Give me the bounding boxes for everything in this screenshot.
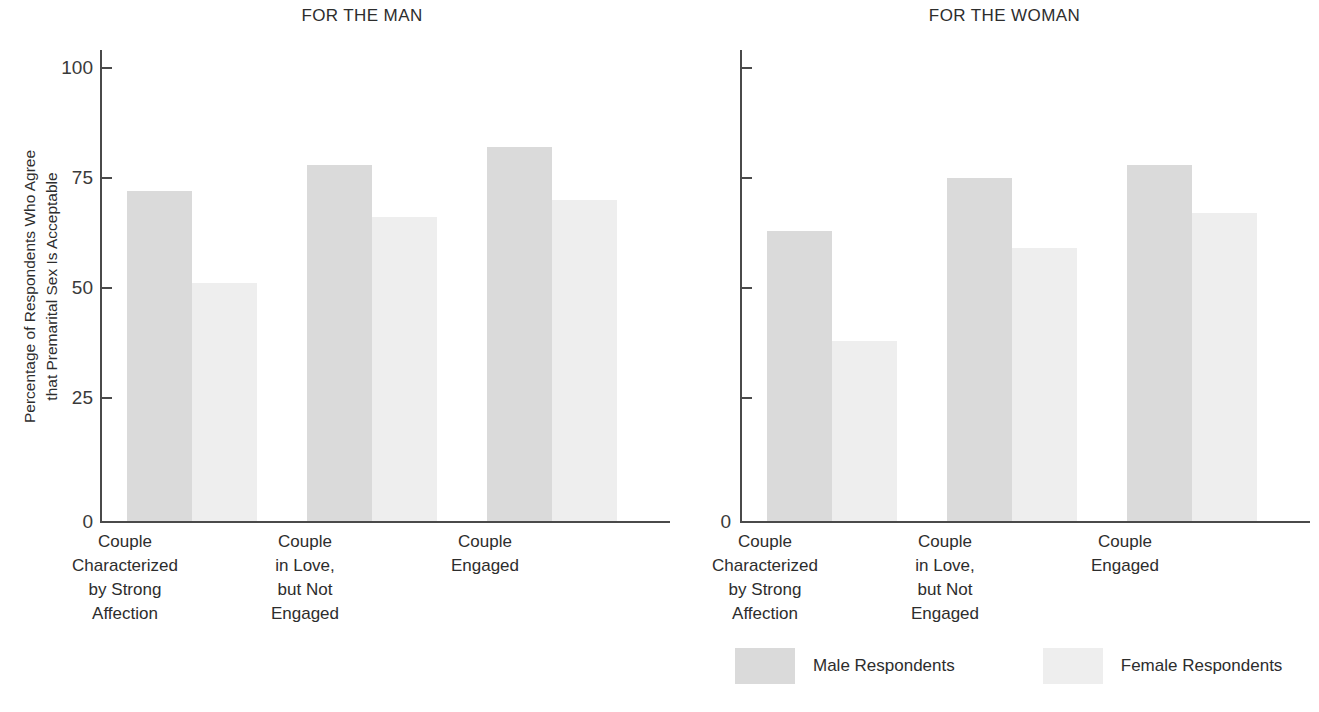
y-tick-100: 100 bbox=[101, 67, 112, 69]
category-label-man-2-line4: Engaged bbox=[205, 602, 405, 626]
category-label-woman-2: Couple in Love, but Not Engaged bbox=[845, 530, 1045, 626]
category-label-woman-2-line3: but Not bbox=[845, 578, 1045, 602]
panel-title-woman: FOR THE WOMAN bbox=[660, 6, 1319, 26]
bar-chart-figure: FOR THE MAN Percentage of Respondents Wh… bbox=[0, 0, 1319, 712]
category-label-woman-1-line4: Affection bbox=[665, 602, 865, 626]
y-tick-woman-50 bbox=[741, 287, 752, 289]
bar-woman-male-2 bbox=[947, 178, 1012, 521]
category-label-man-2: Couple in Love, but Not Engaged bbox=[205, 530, 405, 626]
category-label-woman-2-line4: Engaged bbox=[845, 602, 1045, 626]
legend-item-male: Male Respondents bbox=[735, 648, 955, 684]
bar-woman-female-2 bbox=[1012, 248, 1077, 521]
category-label-man-1-line3: by Strong bbox=[25, 578, 225, 602]
category-label-man-1-line2: Characterized bbox=[25, 554, 225, 578]
y-tick-label-25: 25 bbox=[72, 388, 93, 407]
y-tick-label-woman-0: 0 bbox=[720, 512, 731, 531]
bar-man-male-1 bbox=[127, 191, 192, 521]
category-label-woman-2-line1: Couple bbox=[845, 530, 1045, 554]
bar-woman-male-1 bbox=[767, 231, 832, 521]
category-label-woman-1: Couple Characterized by Strong Affection bbox=[665, 530, 865, 626]
y-tick-50: 50 bbox=[101, 287, 112, 289]
category-label-woman-3-line1: Couple bbox=[1025, 530, 1225, 554]
y-tick-woman-75 bbox=[741, 177, 752, 179]
category-label-woman-1-line1: Couple bbox=[665, 530, 865, 554]
legend: Male Respondents Female Respondents bbox=[735, 648, 1282, 684]
y-tick-label-50: 50 bbox=[72, 278, 93, 297]
plot-area-man: 100 75 50 25 0 bbox=[100, 50, 670, 523]
y-tick-75: 75 bbox=[101, 177, 112, 179]
category-label-woman-1-line3: by Strong bbox=[665, 578, 865, 602]
y-axis-label-line2: that Premarital Sex Is Acceptable bbox=[43, 172, 61, 400]
bar-man-female-3 bbox=[552, 200, 617, 521]
category-label-man-2-line2: in Love, bbox=[205, 554, 405, 578]
y-tick-label-75: 75 bbox=[72, 168, 93, 187]
y-tick-woman-25 bbox=[741, 397, 752, 399]
legend-label-male: Male Respondents bbox=[813, 656, 955, 676]
bar-man-female-2 bbox=[372, 217, 437, 521]
bar-man-male-2 bbox=[307, 165, 372, 521]
bar-woman-female-1 bbox=[832, 341, 897, 521]
category-label-man-1: Couple Characterized by Strong Affection bbox=[25, 530, 225, 626]
category-label-man-1-line4: Affection bbox=[25, 602, 225, 626]
plot-area-woman: 0 bbox=[740, 50, 1310, 523]
bar-man-male-3 bbox=[487, 147, 552, 521]
category-label-man-2-line1: Couple bbox=[205, 530, 405, 554]
panel-title-man: FOR THE MAN bbox=[0, 6, 700, 26]
bar-man-female-1 bbox=[192, 283, 257, 521]
x-axis-line-man bbox=[100, 521, 670, 523]
category-label-woman-3-line2: Engaged bbox=[1025, 554, 1225, 578]
category-label-man-3: Couple Engaged bbox=[385, 530, 585, 578]
y-axis-label-second: that Premarital Sex Is Acceptable bbox=[30, 50, 74, 523]
y-tick-label-0: 0 bbox=[82, 512, 93, 531]
legend-label-female: Female Respondents bbox=[1121, 656, 1283, 676]
x-axis-line-woman bbox=[740, 521, 1310, 523]
category-label-woman-3: Couple Engaged bbox=[1025, 530, 1225, 578]
category-label-woman-2-line2: in Love, bbox=[845, 554, 1045, 578]
panel-for-the-woman: FOR THE WOMAN 0 Couple Characterized by … bbox=[660, 0, 1319, 712]
category-label-man-1-line1: Couple bbox=[25, 530, 225, 554]
legend-swatch-male-icon bbox=[735, 648, 795, 684]
category-label-man-2-line3: but Not bbox=[205, 578, 405, 602]
category-label-woman-1-line2: Characterized bbox=[665, 554, 865, 578]
y-tick-woman-100 bbox=[741, 67, 752, 69]
legend-swatch-female-icon bbox=[1043, 648, 1103, 684]
y-tick-label-100: 100 bbox=[61, 58, 93, 77]
y-tick-25: 25 bbox=[101, 397, 112, 399]
legend-item-female: Female Respondents bbox=[1043, 648, 1283, 684]
panel-for-the-man: FOR THE MAN Percentage of Respondents Wh… bbox=[0, 0, 700, 712]
bar-woman-female-3 bbox=[1192, 213, 1257, 521]
category-label-man-3-line1: Couple bbox=[385, 530, 585, 554]
bar-woman-male-3 bbox=[1127, 165, 1192, 521]
category-label-man-3-line2: Engaged bbox=[385, 554, 585, 578]
